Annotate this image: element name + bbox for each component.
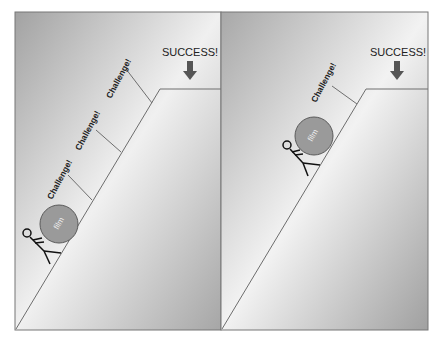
panel-left: SUCCESS! Challenge! Challenge! Challenge… xyxy=(15,12,221,330)
success-label: SUCCESS! xyxy=(370,46,426,58)
panel-right: SUCCESS! Challenge! film xyxy=(221,12,428,330)
success-label: SUCCESS! xyxy=(162,46,218,58)
comic-two-panels: SUCCESS! Challenge! Challenge! Challenge… xyxy=(0,0,442,344)
